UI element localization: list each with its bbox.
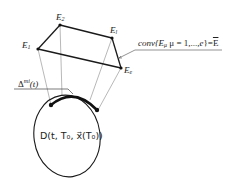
convex-hull-polygon bbox=[38, 25, 121, 68]
arc-endpoint-left bbox=[49, 103, 53, 107]
diagram-canvas bbox=[0, 0, 236, 179]
arc-endpoint-right bbox=[95, 108, 99, 112]
conv-label: conv{Eμ μ = 1,...,e}=E bbox=[138, 39, 218, 48]
region-label: D(t, T₀, x⃗(T₀)) bbox=[40, 131, 103, 141]
label-e2: E2 bbox=[56, 13, 65, 22]
vertex-el bbox=[110, 36, 113, 39]
projection-line-ee bbox=[98, 68, 121, 110]
conv-leader bbox=[119, 50, 222, 58]
vertex-ee bbox=[119, 66, 122, 69]
label-e1: E1 bbox=[22, 41, 31, 50]
delta-leader bbox=[14, 89, 73, 94]
vertex-e1 bbox=[36, 47, 39, 50]
delta-label: Δmi(t) bbox=[18, 78, 38, 89]
vertex-e2 bbox=[58, 23, 61, 26]
label-el: El bbox=[110, 26, 117, 35]
projection-line-e2 bbox=[60, 25, 62, 95]
label-ee: Ee bbox=[124, 66, 132, 75]
projection-line-e1 bbox=[38, 49, 51, 105]
